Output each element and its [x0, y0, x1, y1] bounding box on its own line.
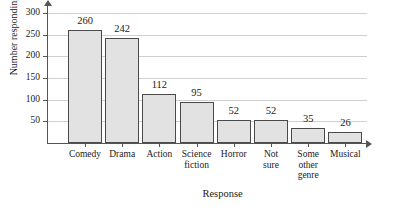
x-axis-tick	[197, 143, 198, 147]
y-axis-tick-label-text: 250	[26, 30, 40, 40]
bar-value-label: 112	[142, 80, 176, 91]
y-axis-title: Number responding	[8, 0, 19, 101]
x-axis-category-label: Musical	[315, 149, 375, 160]
bar	[105, 38, 139, 143]
y-axis-tick-label-text: 50	[31, 116, 41, 126]
bar	[68, 30, 102, 143]
bar-value-label: 242	[105, 24, 139, 35]
bar	[328, 132, 362, 143]
x-axis-tick	[234, 143, 235, 147]
bar-value-label: 52	[217, 106, 251, 117]
y-axis-tick-label-text: 100	[26, 95, 40, 105]
y-axis-tick-label-text: 300	[26, 8, 40, 18]
x-axis-arrowhead	[366, 140, 372, 148]
bar	[291, 128, 325, 143]
x-axis-line	[47, 143, 367, 144]
bar	[254, 120, 288, 143]
bar	[142, 94, 176, 143]
x-axis-tick	[159, 143, 160, 147]
y-axis-tick-label-text: 200	[26, 51, 40, 61]
x-axis-tick	[345, 143, 346, 147]
x-axis-tick	[271, 143, 272, 147]
bar-value-label: 26	[328, 118, 362, 129]
bar-value-label: 35	[291, 114, 325, 125]
bar-value-label: 95	[180, 88, 214, 99]
x-axis-tick	[308, 143, 309, 147]
y-axis-tick-label-text: 150	[26, 73, 40, 83]
x-axis-title-text: Response	[202, 188, 242, 199]
x-axis-title: Response	[0, 188, 401, 199]
x-axis-tick	[85, 143, 86, 147]
x-axis-tick	[122, 143, 123, 147]
bar-chart: 50100150200250300 Number responding 260C…	[0, 0, 401, 210]
bar-value-label: 260	[68, 16, 102, 27]
bar	[217, 120, 251, 143]
bar-value-label: 52	[254, 106, 288, 117]
bar	[180, 102, 214, 143]
